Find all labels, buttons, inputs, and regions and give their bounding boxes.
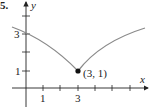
x-axis-label: x [139, 73, 145, 85]
vertex-point [75, 68, 80, 73]
x-tick-label-1: 1 [40, 92, 46, 104]
y-axis-label: y [30, 0, 36, 11]
y-tick-label-1: 1 [15, 65, 21, 77]
y-tick-label-3: 3 [14, 28, 20, 40]
x-tick-label-3: 3 [75, 92, 81, 104]
graph: 5. y x 3 1 1 3 (3, 1) [0, 0, 150, 110]
problem-number: 5. [0, 0, 9, 11]
function-curve [12, 27, 145, 71]
point-label: (3, 1) [83, 67, 107, 80]
